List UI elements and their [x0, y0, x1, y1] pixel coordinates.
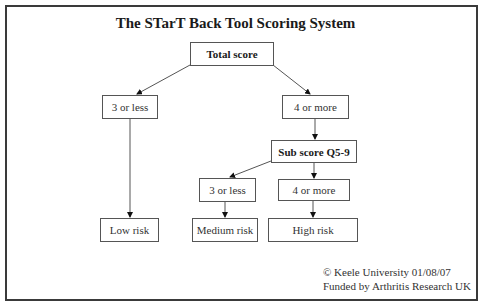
node-sub-3-or-less: 3 or less — [199, 178, 256, 202]
arrow-total-to-4-or-more — [273, 65, 310, 94]
arrow-total-to-3-or-less — [137, 65, 190, 94]
node-high-risk: High risk — [268, 218, 358, 242]
node-sub-4-or-more: 4 or more — [278, 179, 350, 201]
node-medium-risk: Medium risk — [192, 218, 258, 242]
funding-text: Funded by Arthritis Research UK — [323, 279, 471, 293]
node-3-or-less: 3 or less — [102, 95, 158, 119]
copyright-text: © Keele University 01/08/07 — [323, 265, 471, 279]
node-low-risk: Low risk — [100, 218, 159, 242]
footer-credits: © Keele University 01/08/07 Funded by Ar… — [323, 265, 471, 293]
arrow-sub-to-3-or-less — [230, 161, 271, 177]
node-sub-score: Sub score Q5-9 — [271, 140, 357, 163]
node-4-or-more: 4 or more — [282, 95, 349, 119]
node-total-score: Total score — [190, 42, 274, 66]
